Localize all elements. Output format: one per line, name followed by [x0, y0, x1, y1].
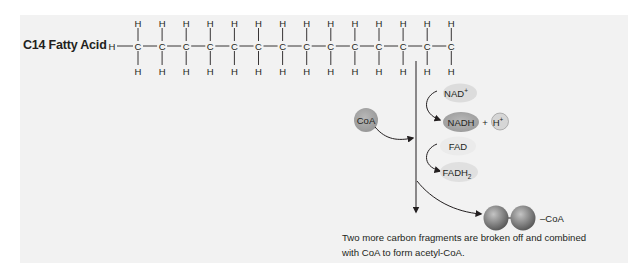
acetyl-coa-product: –CoA	[484, 206, 565, 231]
fad: FAD	[440, 137, 476, 156]
atom-label: H	[279, 66, 286, 77]
atom-label: H	[327, 18, 334, 29]
atom-label: H	[207, 18, 214, 29]
atom-label: H	[255, 18, 262, 29]
atom-label: H	[279, 18, 286, 29]
caption-line-2: with CoA to form acetyl-CoA.	[342, 245, 622, 260]
nad-plus: NAD+	[443, 84, 477, 103]
coa-molecule: CoA	[354, 108, 378, 132]
atom-label: H	[376, 18, 383, 29]
atom-label: H	[424, 18, 431, 29]
atom-label: C	[351, 41, 358, 52]
atom-label: H	[135, 66, 142, 77]
atom-label: H	[400, 18, 407, 29]
atom-label: H	[255, 66, 262, 77]
atom-label: H	[109, 41, 116, 52]
atom-label: C	[400, 41, 407, 52]
svg-text:CoA: CoA	[357, 115, 376, 126]
plus-sign: +	[482, 117, 488, 128]
svg-text:NADH: NADH	[448, 117, 475, 128]
atom-label: H	[327, 66, 334, 77]
atom-label: H	[303, 18, 310, 29]
atom-label: H	[400, 66, 407, 77]
carbon-chain: HCHHCHHCHHCHHCHHCHHCHHCHHCHHCHHCHHCHHCHH…	[109, 18, 455, 77]
atom-label: H	[351, 66, 358, 77]
atom-label: C	[303, 41, 310, 52]
atom-label: H	[376, 66, 383, 77]
fadh2: FADH2	[440, 162, 478, 182]
atom-label: H	[351, 18, 358, 29]
nadh: NADH	[443, 112, 479, 132]
atom-label: C	[279, 41, 286, 52]
atom-label: H	[159, 18, 166, 29]
atom-label: C	[231, 41, 238, 52]
atom-label: H	[183, 18, 190, 29]
atom-label: C	[183, 41, 190, 52]
atom-label: C	[327, 41, 334, 52]
svg-text:–CoA: –CoA	[540, 213, 564, 224]
atom-label: C	[135, 41, 142, 52]
svg-text:FAD: FAD	[449, 141, 468, 152]
atom-label: H	[424, 66, 431, 77]
atom-label: C	[448, 41, 455, 52]
coa-entry-arrow	[375, 127, 413, 139]
atom-label: H	[207, 66, 214, 77]
atom-label: H	[303, 66, 310, 77]
h-plus-ion: H+	[492, 113, 509, 130]
caption-line-1: Two more carbon fragments are broken off…	[342, 230, 622, 245]
atom-label: H	[159, 66, 166, 77]
atom-label: C	[376, 41, 383, 52]
atom-label: C	[207, 41, 214, 52]
nad-reduction-arrow	[427, 91, 441, 120]
atom-label: H	[231, 66, 238, 77]
acetyl-coa-formation-arrow	[417, 181, 481, 214]
figure-caption: Two more carbon fragments are broken off…	[342, 230, 622, 260]
atom-label: H	[183, 66, 190, 77]
atom-label: C	[159, 41, 166, 52]
atom-label: H	[135, 18, 142, 29]
atom-label: H	[448, 18, 455, 29]
atom-label: H	[231, 18, 238, 29]
atom-label: C	[424, 41, 431, 52]
fad-reduction-arrow	[427, 144, 441, 171]
atom-label: C	[255, 41, 262, 52]
atom-label: H	[448, 66, 455, 77]
